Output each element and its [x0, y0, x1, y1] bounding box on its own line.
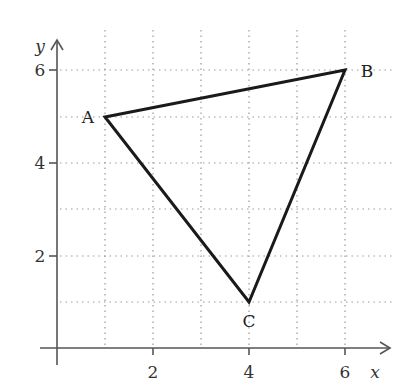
- y-tick-4: 4: [35, 153, 46, 173]
- x-tick-2: 2: [148, 362, 159, 382]
- point-label-b: B: [361, 61, 374, 81]
- coordinate-plane: 2 4 6 2 4 6 x y A B C: [0, 0, 411, 392]
- x-tick-4: 4: [244, 362, 255, 382]
- y-tick-6: 6: [35, 60, 46, 80]
- point-label-c: C: [242, 311, 255, 331]
- point-label-a: A: [81, 107, 95, 127]
- x-axis-label: x: [370, 362, 380, 382]
- triangle-abc: [105, 70, 345, 302]
- x-tick-6: 6: [340, 362, 351, 382]
- y-tick-2: 2: [35, 246, 46, 266]
- y-axis-label: y: [34, 36, 45, 56]
